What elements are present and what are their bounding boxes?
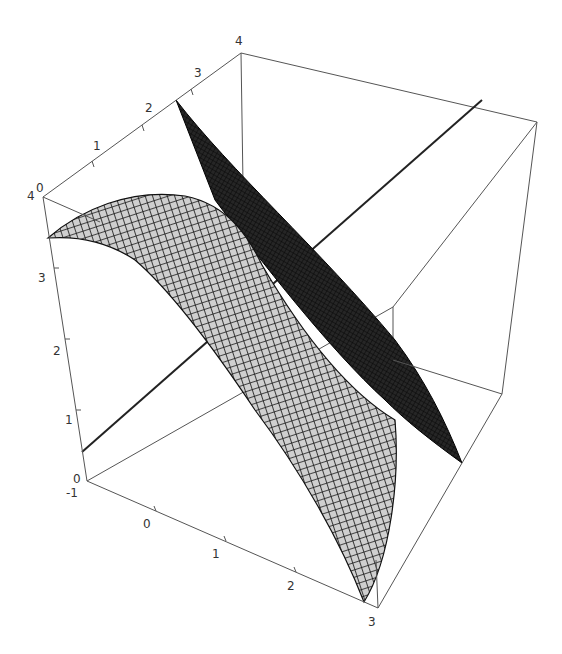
bottom-tick-label: 2 [287,579,295,593]
left-tick-label: 0 [73,472,81,486]
top-tick-label: 3 [194,66,202,80]
left-tick-label: 4 [27,189,35,203]
left-tick-label: 1 [65,413,73,427]
surface-plot-3d: 0 1 2 3 4 4 3 2 1 0 -1 0 1 2 3 [0,0,562,654]
top-tick-label: 0 [36,181,44,195]
bottom-tick-label: 1 [212,547,220,561]
bottom-tick-label: 0 [143,517,151,531]
left-tick-label: 2 [53,344,61,358]
parabolic-surface [48,194,396,602]
left-tick-label: 3 [38,271,46,285]
bottom-tick-label: 3 [368,615,376,629]
top-tick-label: 1 [93,139,101,153]
bottom-tick-label: -1 [66,486,78,500]
top-tick-label: 2 [145,101,153,115]
top-tick-label: 4 [235,34,243,48]
